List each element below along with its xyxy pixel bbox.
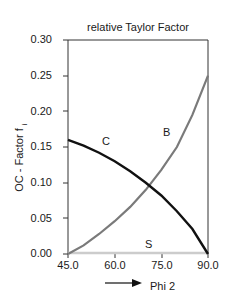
- x-axis-arrow-icon: [105, 279, 142, 287]
- curve-label-s: S: [145, 238, 152, 250]
- curve-label-b: B: [163, 126, 170, 138]
- plot-area: [0, 0, 231, 303]
- x-axis-label: Phi 2: [150, 280, 175, 292]
- curve-label-c: C: [102, 135, 110, 147]
- y-ticks: [63, 40, 68, 254]
- x-ticks: [68, 254, 208, 258]
- curve-b: [68, 76, 208, 254]
